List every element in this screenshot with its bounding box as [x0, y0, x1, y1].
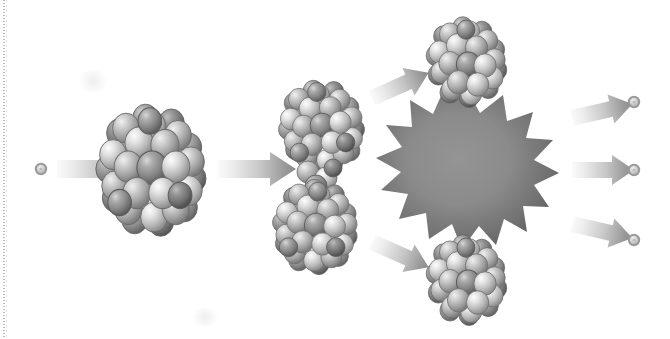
arrow-fragment-lower [366, 228, 435, 281]
released-neutron-upper [629, 97, 639, 107]
arrow-transition [218, 152, 296, 186]
fission-diagram-figure: A neutron strikes a heavy nucleus, which… [0, 0, 670, 339]
fission-diagram-canvas [0, 0, 670, 339]
energy-burst-starburst [376, 88, 559, 249]
arrow-released-neutron-lower [569, 209, 636, 252]
fission-fragment-bottom [426, 235, 507, 326]
arrow-released-neutron-upper [569, 89, 636, 132]
arrow-fragment-upper [366, 59, 435, 112]
target-nucleus [96, 104, 206, 236]
released-neutron-lower [629, 235, 639, 245]
incoming-neutron [36, 164, 46, 174]
arrow-released-neutron-middle [572, 155, 634, 185]
released-neutron-middle [629, 165, 639, 175]
fission-fragment-top [426, 17, 507, 108]
